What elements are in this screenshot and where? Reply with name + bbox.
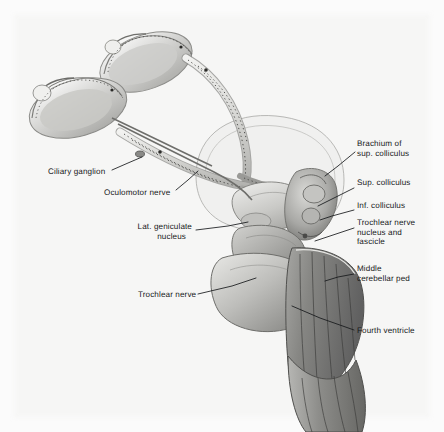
trochlear-nucleus <box>303 234 308 239</box>
ciliary-ganglion-body <box>136 151 145 157</box>
label-sup-colliculus: Sup. colliculus <box>357 178 411 188</box>
superior-colliculus <box>303 185 325 203</box>
label-fourth-ventricle: Fourth ventricle <box>357 326 415 336</box>
label-middle-cerebellar-peduncle: Middlecerebellar ped <box>357 264 410 283</box>
illustration-plate <box>0 0 444 432</box>
inferior-colliculus <box>302 208 320 224</box>
label-oculomotor-nerve: Oculomotor nerve <box>104 188 170 198</box>
label-ciliary-ganglion: Ciliary ganglion <box>48 167 105 177</box>
label-inf-colliculus: Inf. colliculus <box>357 201 405 211</box>
label-trochlear-nerve-nucleus-and-fascicle: Trochlear nervenucleus andfascicle <box>357 218 415 247</box>
label-lat-geniculate-nucleus: Lat. geniculatenucleus <box>120 222 192 241</box>
anatomical-figure: Brachium ofsup. colliculus Sup. collicul… <box>0 0 444 432</box>
label-trochlear-nerve: Trochlear nerve <box>138 290 196 300</box>
label-brachium-of-sup-colliculus: Brachium ofsup. colliculus <box>357 139 409 158</box>
